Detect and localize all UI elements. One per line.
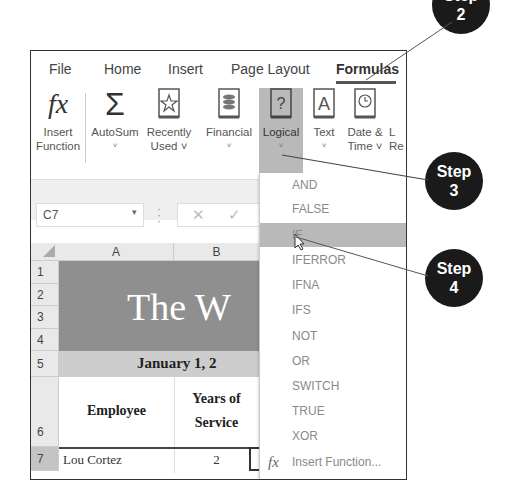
formula-bar-buttons: ✕ ✓ — [177, 203, 267, 227]
menu-item-label: Insert Function... — [292, 455, 381, 469]
chevron-down-icon: ˅ — [257, 139, 305, 153]
sigma-icon: Σ — [89, 87, 141, 121]
recently-used-button[interactable]: Recently Used ˅ — [143, 87, 195, 153]
row-header-7[interactable]: 7 — [31, 447, 59, 471]
row-header-6[interactable]: 6 — [31, 377, 59, 447]
step-2-callout: Step 2 — [432, 0, 490, 34]
button-label: L — [389, 125, 407, 139]
formula-bar-grip-icon: ··· — [157, 206, 161, 224]
name-box-value: C7 — [43, 208, 58, 222]
star-book-icon — [157, 87, 181, 121]
chevron-down-icon[interactable]: ▾ — [132, 207, 137, 217]
row-header-1[interactable]: 1 — [31, 261, 59, 284]
tab-page-layout[interactable]: Page Layout — [231, 61, 310, 77]
callout-word: Step — [437, 163, 472, 180]
button-label: AutoSum — [89, 125, 141, 139]
button-label: Time ˅ — [343, 139, 387, 153]
menu-item-ifna[interactable]: IFNA — [260, 273, 407, 297]
callout-word: Step — [444, 0, 479, 4]
active-cell-c7[interactable] — [249, 447, 259, 471]
menu-item-insert-function[interactable]: fx Insert Function... — [260, 450, 407, 474]
button-label: Re — [389, 139, 407, 153]
menu-item-not[interactable]: NOT — [260, 324, 407, 348]
lookup-reference-button[interactable]: L Re — [389, 87, 407, 153]
clock-book-icon — [353, 87, 377, 121]
cell-b7[interactable]: 2 — [174, 452, 259, 468]
svg-text:?: ? — [277, 95, 286, 112]
header-text: Years of — [192, 391, 241, 406]
menu-item-and[interactable]: AND — [260, 173, 407, 197]
callout-number: 4 — [450, 279, 459, 296]
callout-word: Step — [437, 260, 472, 277]
sheet-date: January 1, 2 — [137, 355, 217, 372]
active-tab-underline — [336, 81, 396, 84]
column-header-b[interactable]: B — [174, 243, 259, 261]
question-book-icon: ? — [269, 87, 293, 121]
column-header-a[interactable]: A — [59, 243, 174, 261]
menu-item-false[interactable]: FALSE — [260, 197, 407, 221]
menu-item-ifs[interactable]: IFS — [260, 298, 407, 322]
button-label: Used ˅ — [143, 139, 195, 153]
chevron-down-icon: ˅ — [307, 139, 341, 153]
button-label: Recently — [143, 125, 195, 139]
tab-file[interactable]: File — [49, 61, 72, 77]
button-label: Function — [33, 139, 83, 153]
tab-home[interactable]: Home — [104, 61, 141, 77]
header-employee: Employee — [59, 403, 174, 419]
excel-window: File Home Insert Page Layout Formulas fx… — [30, 50, 407, 480]
enter-icon[interactable]: ✓ — [228, 206, 241, 224]
name-box[interactable]: C7 ▾ — [36, 203, 144, 227]
row-header-3[interactable]: 3 — [31, 306, 59, 329]
row-header-4[interactable]: 4 — [31, 329, 59, 351]
step-4-callout: Step 4 — [425, 249, 483, 307]
row-header-5[interactable]: 5 — [31, 351, 59, 377]
button-label: Text — [307, 125, 341, 139]
button-label: Insert — [33, 125, 83, 139]
menu-item-xor[interactable]: XOR — [260, 424, 407, 448]
logical-button[interactable]: ? Logical ˅ — [257, 87, 305, 153]
chevron-down-icon: ˅ — [89, 139, 141, 153]
tab-formulas[interactable]: Formulas — [336, 61, 399, 77]
logical-functions-menu: AND FALSE IF IFERROR IFNA IFS NOT OR SWI… — [259, 173, 407, 480]
button-label: Date & — [343, 125, 387, 139]
autosum-button[interactable]: Σ AutoSum ˅ — [89, 87, 141, 153]
cancel-icon[interactable]: ✕ — [192, 206, 205, 224]
menu-item-true[interactable]: TRUE — [260, 399, 407, 423]
cell-a7[interactable]: Lou Cortez — [63, 452, 122, 468]
ribbon-separator — [85, 93, 86, 163]
fx-icon: fx — [33, 87, 83, 121]
tab-insert[interactable]: Insert — [168, 61, 203, 77]
lookup-icon — [389, 87, 407, 121]
menu-item-if[interactable]: IF — [260, 223, 407, 247]
mouse-pointer-icon — [294, 233, 306, 251]
coins-book-icon — [217, 87, 241, 121]
text-button[interactable]: A Text ˅ — [307, 87, 341, 153]
callout-number: 2 — [457, 6, 466, 23]
step-3-callout: Step 3 — [425, 152, 483, 210]
button-label: Logical — [257, 125, 305, 139]
menu-item-or[interactable]: OR — [260, 349, 407, 373]
svg-text:A: A — [318, 94, 330, 114]
button-label: Financial — [203, 125, 255, 139]
letter-a-book-icon: A — [312, 87, 336, 121]
header-years-of-service: Years of Service — [174, 387, 259, 435]
insert-function-button[interactable]: fx Insert Function — [33, 87, 83, 153]
select-all-corner[interactable] — [31, 243, 59, 261]
menu-item-switch[interactable]: SWITCH — [260, 374, 407, 398]
chevron-down-icon: ˅ — [203, 139, 255, 153]
callout-number: 3 — [450, 182, 459, 199]
row-header-2[interactable]: 2 — [31, 284, 59, 306]
financial-button[interactable]: Financial ˅ — [203, 87, 255, 153]
menu-item-iferror[interactable]: IFERROR — [260, 248, 407, 272]
fx-icon: fx — [268, 450, 279, 474]
select-all-triangle-icon — [43, 245, 55, 257]
sheet-title: The W — [127, 285, 231, 329]
date-time-button[interactable]: Date & Time ˅ — [343, 87, 387, 153]
header-text: Service — [195, 415, 239, 430]
